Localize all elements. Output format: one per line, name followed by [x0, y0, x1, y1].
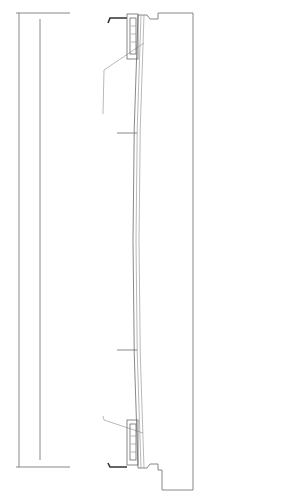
slab-edge-bottom: [138, 464, 193, 490]
road-surface-layers: [133, 15, 144, 468]
curb-top: [108, 13, 193, 59]
railing-bottom: [108, 463, 127, 467]
curb-inner-top: [130, 18, 136, 54]
surface-layer-2: [136, 15, 141, 468]
slab-edge-top: [138, 13, 193, 19]
cross-section-drawing: [0, 0, 294, 499]
conduit-annotation-bottom: [103, 416, 143, 433]
surface-layer-3: [139, 15, 144, 468]
railing-top: [108, 18, 127, 23]
curb-bottom: [108, 420, 193, 490]
dimension-lines: [16, 13, 70, 467]
surface-layer-1: [133, 15, 138, 468]
leader-line: [103, 416, 143, 433]
